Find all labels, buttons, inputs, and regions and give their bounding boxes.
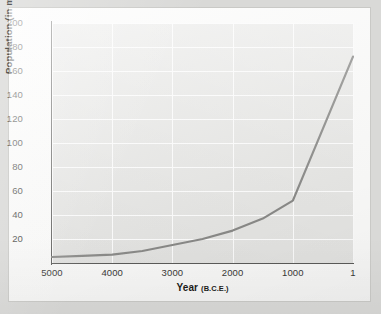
x-axis-title: Year (B.C.E.) xyxy=(52,282,353,293)
y-tick-label: 120 xyxy=(0,114,23,124)
y-axis-title: Population (in millions) xyxy=(3,0,14,74)
y-tick-label: 200 xyxy=(0,18,23,28)
series-line-chart xyxy=(52,23,353,263)
page-background: Population (in millions) 204060801001201… xyxy=(0,0,381,314)
population-series-line xyxy=(52,57,353,257)
x-tick-label: 2000 xyxy=(211,267,255,278)
y-tick-label: 20 xyxy=(0,234,23,244)
x-tick-label: 4000 xyxy=(90,267,134,278)
y-tick-label: 140 xyxy=(0,90,23,100)
x-tick-label: 1000 xyxy=(271,267,315,278)
y-tick-label: 180 xyxy=(0,42,23,52)
x-axis-title-unit: (B.C.E.) xyxy=(201,284,228,293)
x-axis-title-text: Year xyxy=(176,282,198,293)
y-tick-label: 100 xyxy=(0,138,23,148)
x-tick-label: 1 xyxy=(331,267,375,278)
y-tick-label: 60 xyxy=(0,186,23,196)
y-tick-label: 40 xyxy=(0,210,23,220)
y-tick-label: 80 xyxy=(0,162,23,172)
plot-region xyxy=(52,23,353,263)
figure-card: Population (in millions) 204060801001201… xyxy=(8,7,371,302)
x-tick-label: 5000 xyxy=(30,267,74,278)
y-tick-label: 160 xyxy=(0,66,23,76)
x-axis-line xyxy=(51,263,354,264)
x-tick-label: 3000 xyxy=(150,267,194,278)
